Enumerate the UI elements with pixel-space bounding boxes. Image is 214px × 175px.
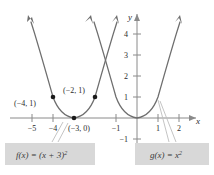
- x-tick-label-2: 2: [177, 124, 181, 133]
- point--2-1: [93, 95, 98, 100]
- point-label--2-1: (−2, 1): [63, 86, 85, 95]
- callout-box-f-label: f(x) = (x + 3)2: [16, 150, 67, 161]
- x-tick-label-1: 1: [156, 124, 160, 133]
- callout-box-g-label: g(x) = x2: [150, 150, 182, 161]
- x-axis-arrow-icon: [189, 115, 196, 121]
- y-tick-label--1: −1: [119, 135, 128, 144]
- callout-g-lead: g(x) = x: [150, 150, 179, 160]
- x-axis-label: x: [195, 116, 200, 126]
- callout-f-exponent: 2: [64, 150, 67, 156]
- point-label--3-0: (−3, 0): [68, 124, 90, 133]
- callout-leader-lines: [52, 100, 176, 142]
- parabola-transformation-figure: −5 −4 −1 1 2 1 2 3 4 −1 x y: [0, 0, 214, 175]
- y-tick-label-1: 1: [124, 93, 128, 102]
- y-tick-label-4: 4: [124, 30, 128, 39]
- callout-g-exponent: 2: [179, 150, 182, 156]
- curve-f-path: [31, 22, 117, 118]
- callout-leader-g2: [160, 101, 176, 142]
- curve-g-right-arrow-icon: [175, 15, 182, 24]
- x-tick-label--1: −1: [112, 124, 121, 133]
- point--3-0: [72, 116, 77, 121]
- curve-f: [27, 15, 117, 118]
- point--4-1: [51, 95, 56, 100]
- curve-g: [94, 15, 182, 118]
- curve-f-left-arrow-icon: [27, 15, 34, 24]
- y-tick-label-3: 3: [124, 51, 128, 60]
- axes-group: [10, 14, 196, 165]
- point-label--4-1: (−4, 1): [14, 99, 36, 108]
- y-tick-label-2: 2: [124, 72, 128, 81]
- callout-box-f[interactable]: f(x) = (x + 3)2: [5, 143, 95, 165]
- y-axis-arrow-icon: [134, 14, 140, 21]
- x-tick-label--5: −5: [28, 124, 37, 133]
- callout-leader-f: [58, 123, 68, 142]
- callout-box-g[interactable]: g(x) = x2: [135, 143, 209, 165]
- callout-f-lead: f(x) = (x + 3): [16, 150, 64, 160]
- curve-f-right-arrow-icon: [85, 15, 93, 24]
- coordinate-plane: −5 −4 −1 1 2 1 2 3 4 −1 x y: [0, 0, 214, 175]
- y-axis-label: y: [127, 12, 132, 22]
- x-tick-label--4: −4: [49, 124, 58, 133]
- curve-g-left-arrow-icon: [112, 15, 119, 24]
